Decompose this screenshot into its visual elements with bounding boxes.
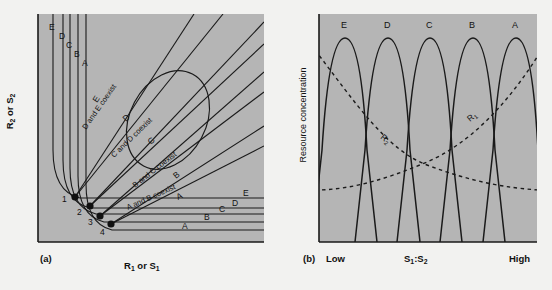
- peak-label-a: A: [512, 20, 518, 30]
- horizontal-label-e: E: [243, 188, 249, 198]
- vertical-label-a: A: [82, 58, 88, 68]
- equilibrium-dot-1: [71, 193, 78, 200]
- peak-label-e: E: [341, 20, 347, 30]
- panel-b-plot-background: [319, 14, 537, 242]
- panel-a-svg: E D C B A 1 2 3 4 E D C B A E D C B A D …: [18, 10, 270, 282]
- panel-b-xtick-low: Low: [326, 253, 345, 264]
- panel-b-xtick-high: High: [509, 253, 530, 264]
- equilibrium-label-1: 1: [62, 194, 67, 204]
- horizontal-label-b: B: [204, 212, 210, 222]
- panel-b-caption: (b): [303, 253, 315, 264]
- horizontal-label-d: D: [232, 198, 238, 208]
- horizontal-label-c: C: [219, 204, 225, 214]
- peak-label-b: B: [469, 20, 475, 30]
- panel-a-caption: (a): [40, 253, 52, 264]
- equilibrium-dot-3: [96, 212, 103, 219]
- peak-label-c: C: [426, 20, 433, 30]
- vertical-label-b: B: [74, 49, 80, 59]
- panel-a-x-axis-label: R1 or S1: [124, 260, 160, 271]
- vertical-label-e: E: [49, 22, 55, 32]
- peak-label-d: D: [384, 20, 391, 30]
- panel-a: E D C B A 1 2 3 4 E D C B A E D C B A D …: [18, 10, 270, 282]
- panel-b-y-axis-label: Resource concentration: [298, 67, 308, 162]
- competition-figure: E D C B A 1 2 3 4 E D C B A E D C B A D …: [0, 0, 552, 290]
- equilibrium-label-2: 2: [77, 207, 82, 217]
- vertical-label-d: D: [59, 31, 65, 41]
- equilibrium-dot-4: [107, 220, 114, 227]
- equilibrium-label-4: 4: [100, 227, 105, 237]
- panel-b: E D C B A R2 R1 Resource concentration (…: [307, 10, 542, 282]
- panel-a-y-axis-label: R2 or S2: [4, 94, 15, 130]
- panel-b-x-axis-label: S1:S2: [404, 253, 427, 264]
- horizontal-label-a: A: [182, 221, 188, 231]
- equilibrium-label-3: 3: [88, 217, 93, 227]
- vertical-label-c: C: [66, 40, 72, 50]
- panel-b-svg: E D C B A R2 R1: [307, 10, 542, 282]
- equilibrium-dot-2: [86, 202, 93, 209]
